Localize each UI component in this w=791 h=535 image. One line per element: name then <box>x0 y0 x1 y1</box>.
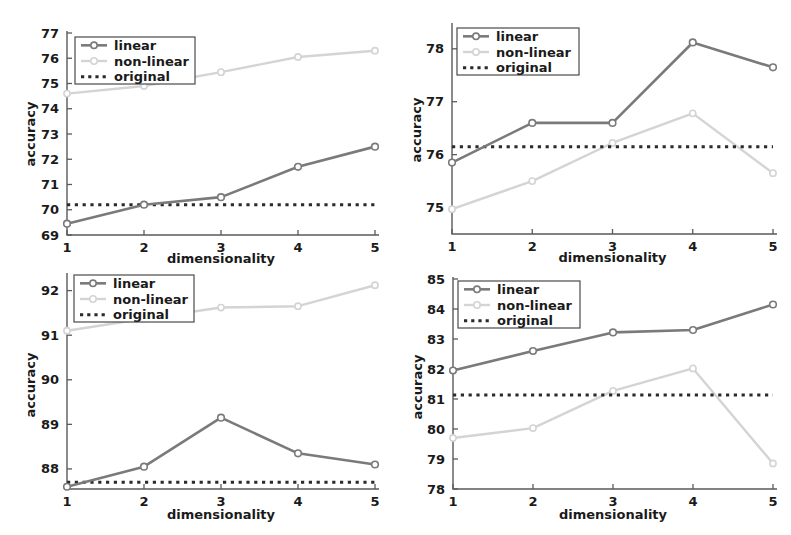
y-tick-label: 84 <box>427 302 445 317</box>
data-point-nonlinear <box>218 304 224 310</box>
data-point-linear <box>141 463 148 470</box>
y-tick-label: 79 <box>427 452 445 467</box>
legend-marker-linear <box>91 42 97 48</box>
x-tick-label: 5 <box>370 494 379 509</box>
data-point-nonlinear <box>64 328 70 334</box>
data-point-nonlinear <box>64 91 70 97</box>
legend-label-original: original <box>496 60 552 75</box>
y-tick-label: 75 <box>41 76 59 91</box>
x-tick-label: 5 <box>768 494 777 509</box>
legend-marker-linear <box>474 286 480 292</box>
x-tick-label: 1 <box>448 494 457 509</box>
y-tick-label: 83 <box>427 332 445 347</box>
data-point-linear <box>689 39 696 46</box>
y-tick-label: 76 <box>41 51 59 66</box>
data-point-linear <box>64 483 71 490</box>
legend-label-nonlinear: non-linear <box>114 54 190 69</box>
y-axis-title: accuracy <box>23 352 38 417</box>
y-axis-title: accuracy <box>410 354 425 419</box>
series-line-nonlinear <box>452 113 773 209</box>
data-point-linear <box>609 120 616 127</box>
y-tick-label: 70 <box>41 202 59 217</box>
data-point-linear <box>690 327 697 334</box>
y-tick-label: 80 <box>427 422 445 437</box>
x-tick-label: 5 <box>370 240 379 255</box>
y-tick-label: 90 <box>41 372 59 387</box>
x-tick-label: 4 <box>293 494 302 509</box>
legend[interactable]: linearnon-linearoriginal <box>458 281 580 328</box>
y-tick-label: 69 <box>41 228 59 243</box>
y-tick-label: 78 <box>427 482 445 497</box>
plot-area-top-left: 69707172737475767712345dimensionalityacc… <box>0 0 395 267</box>
legend-label-linear: linear <box>114 38 157 53</box>
legend[interactable]: linearnon-linearoriginal <box>74 275 194 322</box>
figure-canvas: 69707172737475767712345dimensionalityacc… <box>0 0 791 535</box>
legend-marker-nonlinear <box>91 58 97 64</box>
y-tick-label: 81 <box>427 392 445 407</box>
series-line-linear <box>67 418 375 487</box>
y-tick-label: 77 <box>41 26 59 41</box>
legend-marker-linear <box>473 33 479 39</box>
data-point-linear <box>372 461 379 468</box>
y-tick-label: 76 <box>426 147 444 162</box>
data-point-linear <box>449 159 456 166</box>
series-line-linear <box>67 147 375 224</box>
legend[interactable]: linearnon-linearoriginal <box>457 28 579 75</box>
y-axis-title: accuracy <box>23 101 38 166</box>
x-tick-label: 5 <box>768 239 777 254</box>
data-point-nonlinear <box>295 54 301 60</box>
x-tick-label: 2 <box>528 239 537 254</box>
legend-label-original: original <box>114 69 170 84</box>
data-point-nonlinear <box>690 110 696 116</box>
data-point-nonlinear <box>295 303 301 309</box>
y-tick-label: 78 <box>426 41 444 56</box>
x-tick-label: 2 <box>139 240 148 255</box>
x-axis-title: dimensionality <box>559 507 668 522</box>
plot-area-top-right: 7576777812345dimensionalityaccuracylinea… <box>395 0 791 267</box>
y-tick-label: 92 <box>41 283 59 298</box>
legend-label-linear: linear <box>113 276 156 291</box>
data-point-nonlinear <box>218 69 224 75</box>
data-point-linear <box>218 414 225 421</box>
chart-panel-top-right: 7576777812345dimensionalityaccuracylinea… <box>395 0 791 267</box>
plot-area-bottom-left: 888990919212345dimensionalityaccuracylin… <box>0 267 395 535</box>
data-point-linear <box>529 120 536 127</box>
series-line-nonlinear <box>453 368 773 463</box>
x-tick-label: 1 <box>62 494 71 509</box>
y-tick-label: 75 <box>426 200 444 215</box>
y-tick-label: 88 <box>41 461 59 476</box>
data-point-linear <box>770 301 777 308</box>
data-point-linear <box>218 194 225 201</box>
x-tick-label: 4 <box>293 240 302 255</box>
y-tick-label: 73 <box>41 127 59 142</box>
x-tick-label: 1 <box>62 240 71 255</box>
x-axis-title: dimensionality <box>558 250 667 265</box>
x-axis-title: dimensionality <box>167 507 276 522</box>
x-tick-label: 2 <box>528 494 537 509</box>
data-point-nonlinear <box>690 365 696 371</box>
y-tick-label: 82 <box>427 362 445 377</box>
chart-panel-top-left: 69707172737475767712345dimensionalityacc… <box>0 0 395 267</box>
data-point-linear <box>295 450 302 457</box>
legend-marker-linear <box>90 280 96 286</box>
legend-marker-nonlinear <box>90 296 96 302</box>
x-axis-title: dimensionality <box>167 251 276 266</box>
y-tick-label: 85 <box>427 272 445 287</box>
data-point-nonlinear <box>372 282 378 288</box>
y-tick-label: 91 <box>41 328 59 343</box>
y-tick-label: 72 <box>41 152 59 167</box>
x-tick-label: 4 <box>688 239 697 254</box>
data-point-nonlinear <box>609 140 615 146</box>
data-point-nonlinear <box>529 178 535 184</box>
legend[interactable]: linearnon-linearoriginal <box>75 37 195 84</box>
data-point-nonlinear <box>450 435 456 441</box>
y-tick-label: 71 <box>41 177 59 192</box>
legend-marker-nonlinear <box>473 49 479 55</box>
y-tick-label: 74 <box>41 101 59 116</box>
chart-panel-bottom-right: 787980818283848512345dimensionalityaccur… <box>395 267 791 535</box>
legend-marker-nonlinear <box>474 302 480 308</box>
data-point-linear <box>141 201 148 208</box>
legend-label-nonlinear: non-linear <box>113 292 189 307</box>
legend-label-original: original <box>497 313 553 328</box>
data-point-linear <box>770 64 777 71</box>
